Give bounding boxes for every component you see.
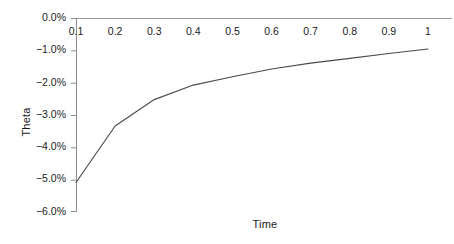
- y-tick-label: −3.0%: [20, 108, 66, 120]
- x-tick-label: 0.2: [95, 25, 135, 37]
- x-tick-label: 0.7: [291, 25, 331, 37]
- x-tick-label: 1: [408, 25, 448, 37]
- theta-vs-time-chart: Theta Time 0.0%−1.0%−2.0%−3.0%−4.0%−5.0%…: [0, 0, 454, 244]
- x-tick-label: 0.6: [252, 25, 292, 37]
- x-tick-label: 0.5: [212, 25, 252, 37]
- y-tick-label: 0.0%: [20, 11, 66, 23]
- theta-series-line: [76, 49, 428, 183]
- x-tick-label: 0.1: [56, 25, 96, 37]
- y-tick-label: −5.0%: [20, 172, 66, 184]
- x-axis-title: Time: [76, 218, 454, 230]
- theta-curve-path: [76, 49, 428, 183]
- y-axis-tick-marks: [71, 19, 76, 212]
- x-tick-label: 0.4: [173, 25, 213, 37]
- y-tick-label: −6.0%: [20, 205, 66, 217]
- x-tick-label: 0.8: [330, 25, 370, 37]
- y-tick-label: −4.0%: [20, 140, 66, 152]
- x-tick-label: 0.3: [134, 25, 174, 37]
- y-tick-label: −1.0%: [20, 43, 66, 55]
- y-tick-label: −2.0%: [20, 76, 66, 88]
- x-tick-label: 0.9: [369, 25, 409, 37]
